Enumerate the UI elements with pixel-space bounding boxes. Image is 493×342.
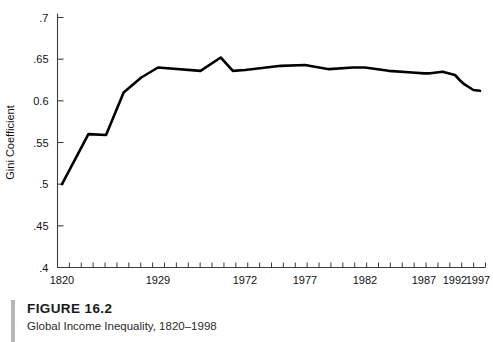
y-axis-tick-label: 0.6 [33,95,48,107]
y-axis-tick-label: .5 [39,178,48,190]
y-axis-tick-label: .45 [33,220,48,232]
caption-accent-rule [11,300,15,342]
figure-caption-block: FIGURE 16.2 Global Income Inequality, 18… [0,296,493,342]
x-axis-tick-label: 1987 [412,274,436,286]
x-axis-tick-label: 1929 [146,274,170,286]
y-axis-tick-label: .55 [33,137,48,149]
x-axis-tick-label: 1992 [443,274,467,286]
y-axis-tick-label: .7 [39,12,48,24]
x-axis-tick-label: 1820 [50,274,74,286]
x-axis-tick-label: 1977 [293,274,317,286]
y-axis-tick-label: .65 [33,53,48,65]
figure-caption-text: Global Income Inequality, 1820–1998 [27,318,467,334]
y-axis-title: Gini Coefficient [4,105,16,179]
chart-plot-area: .4.45.5.550.6.65.71820192919721977198219… [0,0,493,292]
line-chart-svg: .4.45.5.550.6.65.71820192919721977198219… [0,0,493,292]
y-axis-tick-label: .4 [39,262,48,274]
data-series-line [62,58,480,185]
caption-text-wrapper: FIGURE 16.2 Global Income Inequality, 18… [27,300,467,334]
x-axis-tick-label: 1982 [353,274,377,286]
figure-container: .4.45.5.550.6.65.71820192919721977198219… [0,0,493,342]
x-axis-tick-label: 1997 [466,274,490,286]
x-axis-tick-label: 1972 [233,274,257,286]
figure-number-label: FIGURE 16.2 [27,300,467,317]
